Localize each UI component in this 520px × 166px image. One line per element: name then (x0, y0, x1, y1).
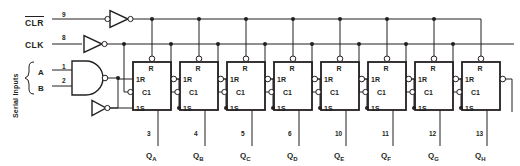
ff-QG-reset-label: R (431, 65, 436, 72)
ff-QH-1r-label: 1R (465, 76, 474, 83)
ff-QD-reset-label: R (290, 65, 295, 72)
ff-QB-1s-label: 1S (183, 105, 192, 112)
serial-input-b-label: B (38, 84, 44, 93)
ff-QF-reset-label: R (384, 65, 389, 72)
output-label-QC: QC (240, 152, 251, 162)
ff-QC-c1-label: C1 (236, 89, 245, 96)
ff-QF-1r-label: 1R (371, 76, 380, 83)
ff-QD-c1-label: C1 (283, 89, 292, 96)
output-label-QF: QF (381, 152, 391, 162)
output-pin-number-QG: 12 (429, 131, 436, 138)
ff-QH-c1-label: C1 (471, 89, 480, 96)
clear-pin-number: 9 (62, 12, 66, 19)
logic-diagram: CLR 9 CLK 8 Serial Inputs A 1 B 2 R1RC11… (0, 0, 520, 166)
ff-QA-1r-label: 1R (136, 76, 145, 83)
output-pin-number-QC: 5 (241, 131, 245, 138)
output-pin-number-QH: 13 (476, 131, 483, 138)
ff-QG-1r-label: 1R (418, 76, 427, 83)
output-label-QE: QE (334, 152, 344, 162)
output-pin-number-QF: 11 (382, 131, 389, 138)
output-pin-number-QB: 4 (194, 131, 198, 138)
output-label-QH: QH (475, 152, 486, 162)
ff-QF-c1-label: C1 (377, 89, 386, 96)
ff-QG-c1-label: C1 (424, 89, 433, 96)
output-pin-number-QD: 6 (288, 131, 292, 138)
serial-input-a-label: A (38, 68, 44, 77)
ff-QC-1s-label: 1S (230, 105, 239, 112)
circuit-svg (0, 0, 520, 166)
clock-input-label: CLK (25, 41, 44, 50)
ff-QE-c1-label: C1 (330, 89, 339, 96)
ff-QF-1s-label: 1S (371, 105, 380, 112)
ff-QG-1s-label: 1S (418, 105, 427, 112)
ff-QC-1r-label: 1R (230, 76, 239, 83)
ff-QH-reset-label: R (478, 65, 483, 72)
ff-QE-reset-label: R (337, 65, 342, 72)
serial-input-b-pin: 2 (62, 78, 66, 85)
ff-QH-1s-label: 1S (465, 105, 474, 112)
output-label-QG: QG (428, 152, 439, 162)
output-label-QD: QD (287, 152, 298, 162)
ff-QB-reset-label: R (196, 65, 201, 72)
serial-input-a-pin: 1 (62, 64, 66, 71)
output-label-QB: QB (193, 152, 204, 162)
output-pin-number-QA: 3 (147, 131, 151, 138)
ff-QE-1s-label: 1S (324, 105, 333, 112)
clock-pin-number: 8 (62, 35, 66, 42)
ff-QC-reset-label: R (243, 65, 248, 72)
ff-QA-reset-label: R (149, 65, 154, 72)
ff-QA-c1-label: C1 (142, 89, 151, 96)
clear-input-label: CLR (25, 18, 44, 27)
output-label-QA: QA (146, 152, 157, 162)
serial-inputs-group-label: Serial Inputs (12, 73, 19, 118)
ff-QD-1s-label: 1S (277, 105, 286, 112)
ff-QE-1r-label: 1R (324, 76, 333, 83)
ff-QD-1r-label: 1R (277, 76, 286, 83)
output-pin-number-QE: 10 (335, 131, 342, 138)
ff-QA-1s-label: 1S (136, 105, 145, 112)
ff-QB-c1-label: C1 (189, 89, 198, 96)
ff-QB-1r-label: 1R (183, 76, 192, 83)
